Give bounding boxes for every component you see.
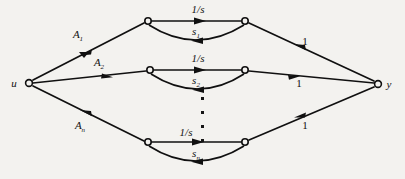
label-feedback-gain-3: sn [192, 147, 200, 162]
node-branch1-left[interactable] [145, 18, 151, 24]
branch-row-2 [147, 67, 248, 94]
node-branch3-left[interactable] [145, 139, 151, 145]
label-input-u: u [11, 77, 17, 89]
ellipsis-dot-1 [201, 97, 204, 100]
arrowhead-forward-2 [194, 67, 206, 74]
label-output-gain-3: 1 [302, 119, 308, 131]
label-forward-gain-1: 1/s [192, 3, 205, 15]
output-edges-group [249, 23, 374, 140]
label-input-gain-3-sub: n [82, 126, 86, 134]
label-feedback-gain-1-sub: 1 [196, 32, 200, 40]
label-feedback-gain-1: s1 [192, 25, 200, 40]
label-input-gain-1-sub: 1 [80, 35, 84, 43]
label-forward-gain-3: 1/s [180, 126, 193, 138]
edge-u-to-branch2 [33, 71, 146, 83]
ellipsis-dot-4 [201, 139, 204, 142]
label-input-gain-2: A2 [93, 56, 105, 71]
node-branch2-right[interactable] [242, 67, 248, 73]
arrowhead-branch3-y [294, 112, 306, 117]
node-input-u[interactable] [26, 80, 33, 87]
figure-canvas: u y A1 A2 An 1/s 1/s 1/s s1 s2 sn 1 1 1 [0, 0, 405, 179]
label-output-gain-2: 1 [296, 77, 302, 89]
node-branch3-right[interactable] [242, 139, 248, 145]
edge-branch3-to-y [249, 87, 374, 140]
ellipsis-dot-3 [201, 125, 204, 128]
input-edges-group [33, 23, 146, 141]
node-output-y[interactable] [375, 81, 382, 88]
label-output-gain-1: 1 [302, 35, 308, 47]
node-branch2-left[interactable] [147, 67, 153, 73]
label-feedback-gain-3-sub: n [196, 154, 200, 162]
label-feedback-gain-2: s2 [192, 74, 200, 89]
signal-flow-graph: u y A1 A2 An 1/s 1/s 1/s s1 s2 sn 1 1 1 [0, 0, 405, 179]
arrowhead-forward-1 [194, 18, 206, 25]
label-input-gain-3: An [74, 119, 86, 134]
vertical-ellipsis [201, 97, 204, 142]
label-output-y: y [386, 78, 392, 90]
label-feedback-gain-2-sub: 2 [196, 81, 200, 89]
label-input-gain-2-sub: 2 [101, 63, 105, 71]
label-input-gain-1: A1 [72, 28, 83, 43]
ellipsis-dot-2 [201, 111, 204, 114]
label-forward-gain-2: 1/s [192, 52, 205, 64]
node-branch1-right[interactable] [242, 18, 248, 24]
branch-row-1 [145, 18, 248, 45]
